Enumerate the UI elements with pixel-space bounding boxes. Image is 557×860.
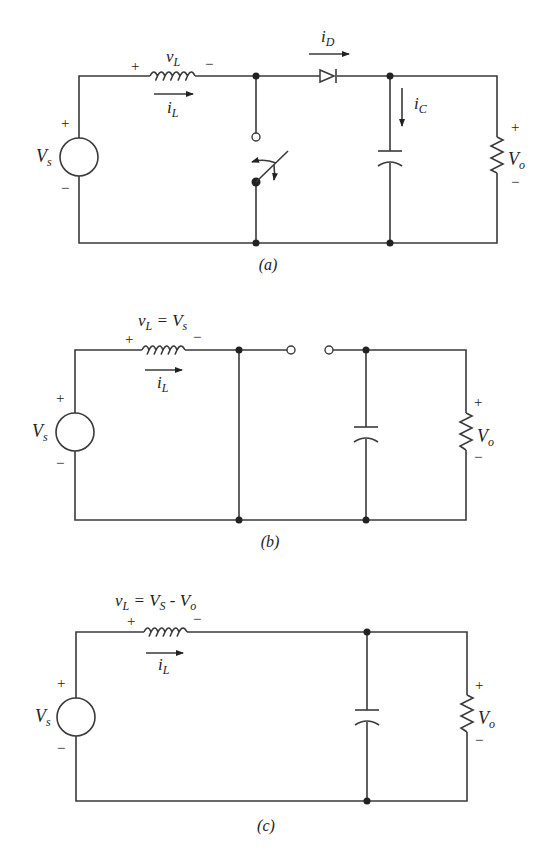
inductor-plus: + xyxy=(125,331,133,347)
source-minus: − xyxy=(61,180,69,196)
node-dot xyxy=(363,517,370,524)
output-plus: + xyxy=(511,119,519,135)
inductor-icon xyxy=(150,72,195,80)
output-plus: + xyxy=(475,677,483,693)
inductor-voltage-label: vL xyxy=(166,47,181,69)
voltage-source-icon xyxy=(56,413,94,451)
output-minus: − xyxy=(474,449,482,465)
node-dot xyxy=(363,347,370,354)
wire xyxy=(79,76,497,243)
node-dot xyxy=(253,240,260,247)
circuit-panel-c: + − Vs + − vL = VS - Vo iL + Vo − (c) xyxy=(35,591,495,835)
inductor-plus: + xyxy=(131,58,139,74)
output-label: Vo xyxy=(478,708,495,731)
voltage-source-icon xyxy=(57,698,95,736)
circuit-panel-b: + − Vs + − vL = Vs iL + Vo − (b) xyxy=(32,311,494,551)
inductor-minus: − xyxy=(205,56,213,72)
switch-icon xyxy=(252,133,289,187)
inductor-icon xyxy=(144,628,187,636)
inductor-current-label: iL xyxy=(158,655,170,677)
wire xyxy=(76,632,467,801)
source-minus: − xyxy=(57,740,65,756)
output-plus: + xyxy=(474,394,482,410)
node-dot xyxy=(236,347,243,354)
source-plus: + xyxy=(57,675,65,691)
node-dot xyxy=(364,629,371,636)
resistor-icon xyxy=(460,413,472,450)
output-minus: − xyxy=(475,732,483,748)
source-label: Vs xyxy=(32,421,48,444)
inductor-icon xyxy=(142,346,185,354)
circuit-panel-a: + − Vs + − vL iL iD iC xyxy=(36,27,525,274)
open-terminal-icon xyxy=(287,346,333,354)
output-label: Vo xyxy=(508,149,525,172)
source-label: Vs xyxy=(36,146,52,169)
source-minus: − xyxy=(56,455,64,471)
voltage-source-icon xyxy=(60,138,98,176)
source-plus: + xyxy=(61,115,69,131)
inductor-current-label: iL xyxy=(157,373,169,395)
node-dot xyxy=(236,517,243,524)
resistor-icon xyxy=(461,695,473,732)
panel-caption: (b) xyxy=(261,533,280,551)
inductor-minus: − xyxy=(193,611,201,627)
cap-current-label: iC xyxy=(414,94,428,116)
panel-caption: (a) xyxy=(259,256,278,274)
diode-icon xyxy=(320,69,336,83)
output-label: Vo xyxy=(477,426,494,449)
diode-current-label: iD xyxy=(321,27,335,49)
node-dot xyxy=(253,73,260,80)
inductor-voltage-equation: vL = VS - Vo xyxy=(115,591,196,613)
source-label: Vs xyxy=(35,706,51,729)
wire xyxy=(75,350,466,520)
node-dot xyxy=(364,798,371,805)
panel-caption: (c) xyxy=(257,817,275,835)
source-plus: + xyxy=(56,390,64,406)
resistor-icon xyxy=(491,137,503,173)
inductor-voltage-equation: vL = Vs xyxy=(138,311,188,333)
inductor-current-label: iL xyxy=(167,98,179,120)
output-minus: − xyxy=(511,174,519,190)
inductor-plus: + xyxy=(127,613,135,629)
inductor-minus: − xyxy=(193,329,201,345)
node-dot xyxy=(387,73,394,80)
boost-converter-figure: + − Vs + − vL iL iD iC xyxy=(0,0,557,860)
node-dot xyxy=(387,240,394,247)
